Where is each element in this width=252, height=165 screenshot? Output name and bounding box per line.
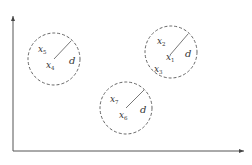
radius-label: d [140,104,146,115]
point-label-x6: x6 [119,110,128,121]
cluster-b: x2x1x3d [145,26,197,78]
cluster-diagram: x5x4dx2x1x3dx7x6d [0,0,252,165]
cluster-c: x7x6d [100,82,152,134]
point-label-x1: x1 [166,52,175,63]
point-label-x2: x2 [157,36,166,47]
point-label-x7: x7 [110,94,119,105]
point-label-x3: x3 [154,64,163,75]
radius-label: d [69,55,75,66]
point-label-x4: x4 [46,60,55,71]
radius-label: d [185,48,191,59]
clusters: x5x4dx2x1x3dx7x6d [28,26,197,134]
cluster-a: x5x4d [28,33,80,85]
point-label-x5: x5 [38,44,47,55]
axes [13,16,244,151]
